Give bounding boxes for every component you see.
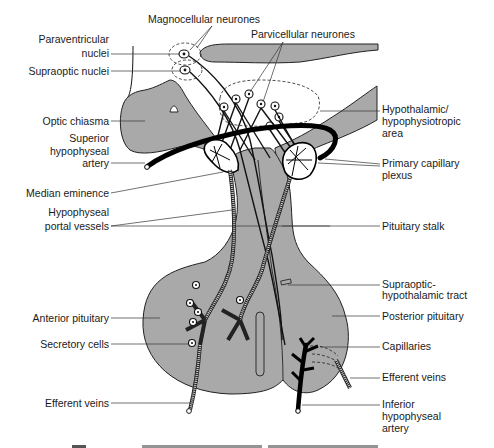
label-magnocellular-neurones: Magnocellular neurones: [148, 13, 260, 25]
hypothalamus-upper-band: [200, 44, 378, 63]
label-hypothalamic-area-1: Hypothalamic/: [382, 103, 449, 115]
label-capillaries: Capillaries: [382, 340, 431, 352]
label-pituitary-stalk: Pituitary stalk: [382, 220, 445, 232]
hypothalamic-pituitary-diagram: Magnocellular neurones Parvicellular neu…: [0, 0, 494, 448]
label-superior-hypophyseal-artery-1: Superior: [69, 132, 109, 144]
label-paraventricular-nuclei: Paraventricular: [38, 33, 109, 45]
label-supraoptic-hypothalamic-tract-2: hypothalamic tract: [382, 289, 467, 301]
label-paraventricular-nuclei-2: nuclei: [82, 47, 109, 59]
label-secretory-cells: Secretory cells: [40, 338, 109, 350]
label-parvicellular-neurones: Parvicellular neurones: [251, 28, 355, 40]
labels-top: Magnocellular neurones Parvicellular neu…: [148, 13, 355, 40]
label-hypophyseal-portal-vessels-2: portal vessels: [45, 220, 109, 232]
pituitary-body: [143, 148, 348, 394]
label-inferior-hypophyseal-artery-1: Inferior: [382, 398, 415, 410]
label-supraoptic-nuclei: Supraoptic nuclei: [28, 65, 109, 77]
label-efferent-veins-right: Efferent veins: [382, 371, 446, 383]
label-superior-hypophyseal-artery-3: artery: [82, 157, 110, 169]
label-anterior-pituitary: Anterior pituitary: [33, 312, 110, 324]
label-primary-capillary-plexus-1: Primary capillary: [382, 157, 460, 169]
label-hypothalamic-area-3: area: [382, 127, 403, 139]
label-hypophyseal-portal-vessels-1: Hypophyseal: [48, 206, 109, 218]
label-median-eminence: Median eminence: [26, 187, 109, 199]
label-inferior-hypophyseal-artery-2: hypophyseal: [382, 410, 441, 422]
label-primary-capillary-plexus-2: plexus: [382, 169, 412, 181]
label-efferent-veins-left: Efferent veins: [45, 397, 109, 409]
labels-right: Hypothalamic/ hypophysiotropic area Prim…: [382, 103, 467, 434]
label-optic-chiasma: Optic chiasma: [42, 115, 109, 127]
label-inferior-hypophyseal-artery-3: artery: [382, 422, 410, 434]
labels-left: Paraventricular nuclei Supraoptic nuclei…: [26, 33, 110, 409]
label-hypothalamic-area-2: hypophysiotropic: [382, 115, 461, 127]
label-posterior-pituitary: Posterior pituitary: [382, 310, 464, 322]
label-superior-hypophyseal-artery-2: hypophyseal: [50, 145, 109, 157]
intermediate-lobe-slit: [256, 312, 264, 376]
